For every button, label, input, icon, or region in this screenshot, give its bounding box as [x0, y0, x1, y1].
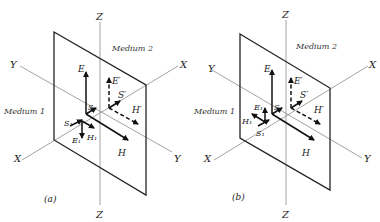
reflection-diagram: Z Z X X Y Y Medium 2 Medium 1 E E′ S′ H′… — [0, 0, 380, 222]
label-y-left: Y — [208, 63, 216, 74]
label-z-bottom: Z — [281, 209, 290, 220]
label-medium-2: Medium 2 — [295, 42, 337, 51]
label-S: S — [274, 103, 280, 112]
label-x-right: X — [368, 59, 377, 70]
label-E1: E₁ — [253, 103, 263, 112]
label-E: E — [263, 64, 271, 74]
vector-H1 — [252, 114, 265, 122]
label-H: H — [117, 148, 126, 158]
label-z-top: Z — [281, 9, 290, 20]
label-medium-1: Medium 1 — [3, 107, 45, 116]
panel-a: Z Z X X Y Y Medium 2 Medium 1 E E′ S′ H′… — [3, 11, 188, 220]
label-S1: S₁ — [256, 129, 265, 138]
label-medium-2: Medium 2 — [111, 44, 153, 53]
label-z-bottom: Z — [95, 209, 104, 220]
label-E-prime: E′ — [111, 76, 121, 86]
label-y-left: Y — [10, 59, 18, 70]
vector-S-prime — [109, 101, 120, 108]
label-H1: H₁ — [86, 133, 97, 142]
label-y-right: Y — [364, 153, 372, 164]
label-S1: S₁ — [64, 119, 73, 128]
label-x-right: X — [179, 59, 188, 70]
vector-H1 — [82, 121, 94, 128]
label-H-prime: H′ — [313, 105, 324, 115]
caption-b: (b) — [232, 192, 245, 202]
label-E1: E₁ — [71, 136, 81, 145]
label-S: S — [88, 103, 94, 112]
label-x-left: X — [13, 153, 22, 164]
label-S-prime: S′ — [118, 90, 126, 100]
label-E-prime: E′ — [293, 76, 303, 86]
label-y-right: Y — [174, 153, 182, 164]
label-H: H — [301, 148, 310, 158]
label-E: E — [77, 64, 85, 74]
label-H-prime: H′ — [131, 105, 142, 115]
label-x-left: X — [203, 153, 212, 164]
label-S-prime: S′ — [300, 90, 308, 100]
caption-a: (a) — [44, 194, 57, 204]
panel-b: Z Z X X Y Y Medium 2 Medium 1 E E′ S′ H′… — [193, 9, 377, 220]
label-medium-1: Medium 1 — [193, 107, 235, 116]
label-H1: H₁ — [241, 117, 252, 126]
label-z-top: Z — [95, 11, 104, 22]
